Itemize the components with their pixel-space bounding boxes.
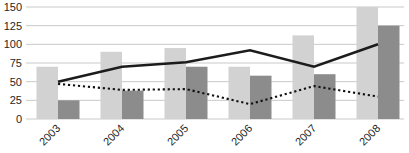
y-tick-label: 75	[10, 57, 22, 69]
gridlines	[26, 7, 404, 119]
bar-dark-bars-2004	[122, 91, 144, 119]
y-tick-label: 50	[10, 76, 22, 88]
y-tick-label: 125	[4, 20, 22, 32]
bar-dark-bars-2003	[58, 100, 80, 119]
bar-dark-bars-2008	[378, 26, 400, 119]
bar-light-bars-2004	[101, 52, 123, 119]
y-tick-label: 100	[4, 38, 22, 50]
bar-dark-bars-2006	[250, 76, 272, 119]
x-tick-label-2008: 2008	[357, 122, 383, 148]
combo-bar-line-chart: 0255075100125150200320042005200620072008	[0, 0, 409, 153]
bar-light-bars-2007	[293, 35, 315, 119]
x-tick-label-2006: 2006	[229, 122, 255, 148]
bar-light-bars-2003	[37, 67, 59, 119]
y-tick-label: 0	[16, 113, 22, 125]
bar-dark-bars-2007	[314, 74, 336, 119]
x-tick-label-2003: 2003	[37, 122, 63, 148]
x-tick-label-2005: 2005	[165, 122, 191, 148]
chart-canvas: 0255075100125150200320042005200620072008	[0, 0, 409, 153]
y-tick-label: 150	[4, 1, 22, 13]
y-axis-tick-labels: 0255075100125150	[4, 1, 22, 125]
y-tick-label: 25	[10, 94, 22, 106]
x-tick-label-2004: 2004	[101, 122, 127, 148]
bar-light-bars-2006	[229, 67, 251, 119]
x-axis-tick-labels: 200320042005200620072008	[37, 122, 383, 148]
x-tick-label-2007: 2007	[293, 122, 319, 148]
bar-light-bars-2008	[357, 7, 379, 119]
bar-light-bars-2005	[165, 48, 187, 119]
